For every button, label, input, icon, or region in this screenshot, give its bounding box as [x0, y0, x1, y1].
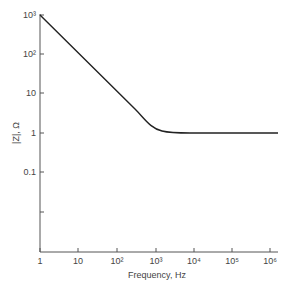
svg-text:1: 1: [31, 128, 36, 138]
y-tick-labels: 10³ 10² 10 1 0.1: [23, 10, 36, 177]
svg-text:10⁶: 10⁶: [263, 256, 277, 266]
svg-text:0.1: 0.1: [23, 167, 36, 177]
x-tick-100000: 10⁵: [225, 256, 239, 266]
impedance-chart: 10³ 10² 10 1 0.1 |Z|, Ω 1 10 10² 10³ 10⁴…: [0, 0, 290, 286]
svg-text:10³: 10³: [149, 256, 162, 266]
y-tick-0.1: 0.1: [23, 167, 36, 177]
svg-text:10⁵: 10⁵: [225, 256, 239, 266]
svg-text:10²: 10²: [23, 49, 36, 59]
svg-text:10: 10: [73, 256, 83, 266]
y-ticks: [40, 15, 44, 212]
x-tick-100: 10²: [110, 256, 123, 266]
svg-text:10⁴: 10⁴: [187, 256, 201, 266]
x-tick-labels: 1 10 10² 10³ 10⁴ 10⁵ 10⁶: [37, 256, 277, 266]
svg-text:10³: 10³: [23, 10, 36, 20]
impedance-curve: [40, 15, 278, 133]
x-tick-10: 10: [73, 256, 83, 266]
x-tick-1000: 10³: [149, 256, 162, 266]
x-tick-1: 1: [37, 256, 42, 266]
svg-text:10²: 10²: [110, 256, 123, 266]
y-tick-10: 10: [26, 88, 36, 98]
y-axis-title: |Z|, Ω: [11, 122, 21, 144]
x-axis-title: Frequency, Hz: [128, 270, 186, 280]
y-tick-1: 1: [31, 128, 36, 138]
x-tick-1000000: 10⁶: [263, 256, 277, 266]
y-tick-100: 10²: [23, 49, 36, 59]
y-tick-1000: 10³: [23, 10, 36, 20]
x-tick-10000: 10⁴: [187, 256, 201, 266]
svg-text:1: 1: [37, 256, 42, 266]
svg-text:10: 10: [26, 88, 36, 98]
x-ticks: [40, 248, 270, 252]
